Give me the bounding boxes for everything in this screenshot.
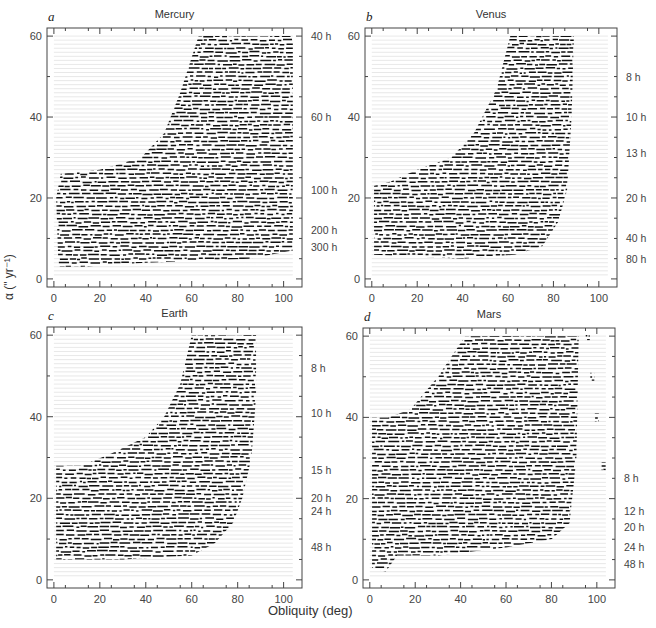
x-tick-label: 40 xyxy=(140,292,152,304)
x-tick-label: 40 xyxy=(454,593,466,605)
period-label: 10 h xyxy=(626,111,647,123)
y-tick-label: 0 xyxy=(36,273,42,285)
x-tick-label: 80 xyxy=(547,292,559,304)
panel-letter: c xyxy=(48,308,54,323)
period-label: 80 h xyxy=(626,253,647,265)
regular-rows xyxy=(372,36,608,275)
period-label: 20 h xyxy=(626,192,647,204)
y-tick-label: 0 xyxy=(352,574,358,586)
x-tick-label: 100 xyxy=(274,292,292,304)
x-tick-label: 80 xyxy=(232,593,244,605)
x-tick-label: 20 xyxy=(409,593,421,605)
y-tick-label: 20 xyxy=(30,192,42,204)
period-label: 24 h xyxy=(311,505,332,517)
panel-letter: d xyxy=(364,309,371,324)
y-tick-label: 60 xyxy=(30,30,42,42)
x-tick-label: 0 xyxy=(51,292,57,304)
y-tick-label: 0 xyxy=(354,273,360,285)
period-label: 13 h xyxy=(626,147,647,159)
x-tick-label: 40 xyxy=(140,593,152,605)
period-label: 60 h xyxy=(311,111,332,123)
x-tick-label: 0 xyxy=(51,593,57,605)
x-tick-label: 0 xyxy=(367,593,373,605)
period-label: 100 h xyxy=(311,184,337,196)
period-label: 48 h xyxy=(311,541,332,553)
period-label: 20 h xyxy=(311,492,332,504)
chaotic-zone xyxy=(54,35,302,275)
x-tick-label: 60 xyxy=(186,292,198,304)
panel-title: Mercury xyxy=(155,8,195,20)
y-tick-label: 60 xyxy=(30,329,42,341)
figure-canvas: 0204060801000204060aMercury40 h60 h100 h… xyxy=(0,0,656,628)
x-tick-label: 40 xyxy=(456,292,468,304)
y-axis-label: α (" yr⁻¹) xyxy=(2,254,16,300)
x-tick-label: 0 xyxy=(369,292,375,304)
x-tick-label: 60 xyxy=(502,292,514,304)
panel-a: 0204060801000204060aMercury40 h60 h100 h… xyxy=(30,8,338,304)
x-tick-label: 100 xyxy=(588,593,606,605)
x-tick-label: 80 xyxy=(545,593,557,605)
chaotic-zone xyxy=(54,335,302,577)
x-tick-label: 80 xyxy=(232,292,244,304)
x-tick-label: 60 xyxy=(186,593,198,605)
panel-b: 0204060801000204060bVenus8 h10 h13 h20 h… xyxy=(348,8,647,304)
y-tick-label: 0 xyxy=(36,574,42,586)
chaotic-zone xyxy=(372,35,619,275)
y-tick-label: 40 xyxy=(30,411,42,423)
y-tick-label: 20 xyxy=(348,192,360,204)
y-tick-label: 60 xyxy=(348,30,360,42)
panel-title: Earth xyxy=(161,307,187,319)
period-label: 200 h xyxy=(311,224,337,236)
period-label: 20 h xyxy=(624,521,645,533)
x-tick-label: 100 xyxy=(590,292,608,304)
period-label: 40 h xyxy=(626,232,647,244)
x-axis-label: Obliquity (deg) xyxy=(268,603,353,618)
x-tick-label: 20 xyxy=(94,292,106,304)
period-label: 300 h xyxy=(311,241,337,253)
chaotic-zone xyxy=(370,336,616,577)
period-label: 8 h xyxy=(624,472,639,484)
y-tick-label: 40 xyxy=(30,111,42,123)
panel-title: Mars xyxy=(477,308,502,320)
x-tick-label: 20 xyxy=(94,593,106,605)
x-tick-label: 60 xyxy=(500,593,512,605)
y-tick-label: 60 xyxy=(346,330,358,342)
period-label: 24 h xyxy=(624,541,645,553)
panel-letter: a xyxy=(48,9,55,24)
period-label: 8 h xyxy=(626,71,641,83)
panel-letter: b xyxy=(366,9,373,24)
period-label: 15 h xyxy=(311,464,332,476)
period-label: 12 h xyxy=(624,505,645,517)
period-label: 48 h xyxy=(624,558,645,570)
panel-title: Venus xyxy=(476,8,507,20)
period-label: 10 h xyxy=(311,407,332,419)
y-tick-label: 40 xyxy=(348,111,360,123)
y-tick-label: 20 xyxy=(346,493,358,505)
panel-c: 0204060801000204060cEarth8 h10 h15 h20 h… xyxy=(30,307,332,605)
y-tick-label: 40 xyxy=(346,411,358,423)
panel-d: 0204060801000204060dMars8 h12 h20 h24 h4… xyxy=(346,308,645,605)
period-label: 40 h xyxy=(311,30,332,42)
y-tick-label: 20 xyxy=(30,492,42,504)
period-label: 8 h xyxy=(311,362,326,374)
x-tick-label: 20 xyxy=(411,292,423,304)
